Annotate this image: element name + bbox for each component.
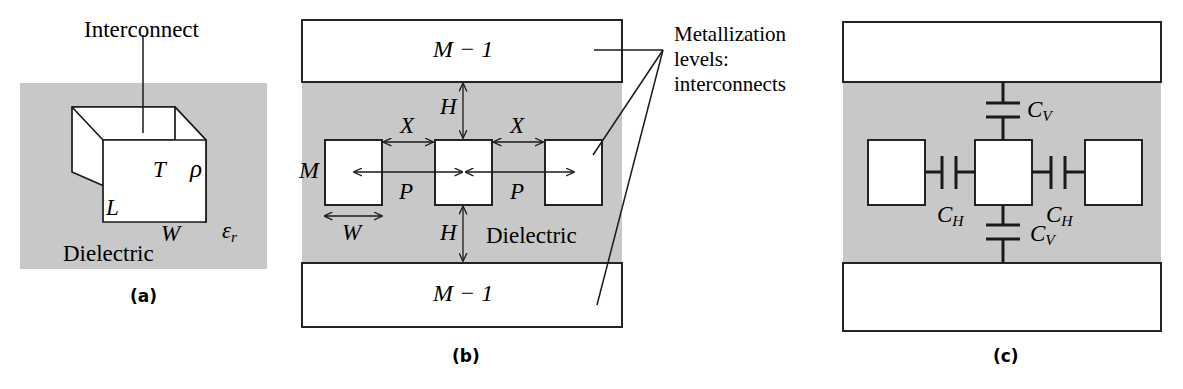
- panel-b-bottom-level-label: M − 1: [433, 281, 493, 305]
- panel-c-interconnect-middle: [975, 140, 1032, 205]
- panel-b-height-bottom-label: H: [440, 221, 457, 244]
- metallization-levels-annotation: Metallization levels: interconnects: [674, 22, 786, 96]
- panel-a-permittivity-subscript: r: [231, 228, 237, 245]
- diagram-vector-layer: [0, 0, 1183, 389]
- panel-a-dielectric-label: Dielectric: [63, 242, 154, 265]
- panel-c-interconnect-left: [868, 140, 925, 205]
- panel-c-ch-left-subscript: H: [952, 212, 963, 229]
- panel-c-ch-right-symbol: C: [1046, 202, 1061, 227]
- panel-a-permittivity-symbol: ε: [222, 218, 231, 243]
- panel-b-dielectric-label: Dielectric: [486, 224, 577, 247]
- panel-b-current-level-label: M: [299, 158, 319, 182]
- panel-b-spacing-left-label: X: [400, 114, 414, 137]
- panel-a-permittivity-label: εr: [222, 219, 237, 245]
- panel-a-resistivity-label: ρ: [190, 156, 202, 181]
- panel-b-width-label: W: [342, 221, 361, 244]
- panel-b-caption: (b): [452, 348, 480, 365]
- panel-c-cv-top-symbol: C: [1027, 97, 1042, 122]
- panel-c-ch-left-label: CH: [937, 203, 964, 229]
- panel-a-length-label: L: [106, 196, 119, 219]
- panel-b-pitch-left-label: P: [399, 180, 413, 203]
- panel-c-bottom-metal-level: [843, 263, 1161, 331]
- panel-c-cv-bottom-symbol: C: [1030, 221, 1045, 246]
- panel-c-cv-bottom-subscript: V: [1045, 231, 1055, 248]
- panel-a-thickness-label: T: [153, 158, 166, 181]
- panel-b-top-level-label: M − 1: [433, 37, 493, 61]
- panel-a-caption: (a): [130, 288, 157, 305]
- panel-c-cv-top-subscript: V: [1042, 107, 1052, 124]
- panel-c-ch-left-symbol: C: [937, 202, 952, 227]
- panel-c-graphics: [843, 22, 1161, 331]
- panel-c-ch-right-label: CH: [1046, 203, 1073, 229]
- panel-a-width-label: W: [161, 222, 180, 245]
- panel-b-pitch-right-label: P: [510, 180, 524, 203]
- panel-c-top-metal-level: [843, 22, 1161, 82]
- panel-c-ch-right-subscript: H: [1061, 212, 1072, 229]
- panel-c-caption: (c): [993, 348, 1019, 365]
- panel-b-height-top-label: H: [440, 95, 457, 118]
- figure-canvas: Interconnect T ρ L W εr Dielectric (a) M…: [0, 0, 1183, 389]
- panel-a-interconnect-callout-label: Interconnect: [84, 18, 199, 41]
- panel-c-cv-top-label: CV: [1027, 98, 1052, 124]
- panel-c-interconnect-right: [1085, 140, 1142, 205]
- panel-b-spacing-right-label: X: [510, 114, 524, 137]
